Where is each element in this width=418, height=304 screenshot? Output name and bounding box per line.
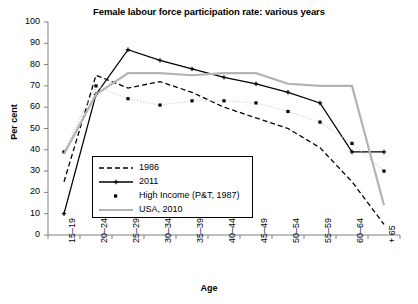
legend-item: 2011: [93, 174, 254, 189]
x-tick-label: 15–19: [68, 218, 77, 243]
chart-legend: 19862011High Income (P&T, 1987)USA, 2010: [92, 156, 253, 218]
x-tick-label: 25–29: [132, 218, 141, 243]
chart-figure: Female labour force participation rate: …: [0, 0, 418, 304]
plot-area: [0, 0, 418, 304]
legend-item: USA, 2010: [93, 202, 254, 217]
legend-item: 1986: [93, 160, 254, 175]
x-tick-label: 60–64: [356, 218, 365, 243]
legend-label: USA, 2010: [139, 204, 183, 215]
x-axis-label: Age: [0, 283, 418, 293]
legend-label: High Income (P&T, 1987): [139, 190, 240, 201]
x-tick-label: 55–59: [324, 218, 333, 243]
legend-item: High Income (P&T, 1987): [93, 188, 254, 203]
x-tick-label: 30–34: [164, 218, 173, 243]
x-tick-label: 35–39: [196, 218, 205, 243]
legend-swatch: [97, 202, 135, 217]
legend-swatch: [97, 160, 135, 175]
legend-label: 1986: [139, 162, 159, 173]
legend-label: 2011: [139, 176, 158, 187]
x-tick-label: 40–44: [228, 218, 237, 243]
x-tick-label: 20–24: [100, 218, 109, 243]
x-tick-label: 50–54: [292, 218, 301, 243]
x-tick-label: 45–49: [260, 218, 269, 243]
x-tick-label: + 65: [388, 225, 397, 243]
legend-swatch: [97, 174, 135, 189]
legend-swatch: [97, 188, 135, 203]
